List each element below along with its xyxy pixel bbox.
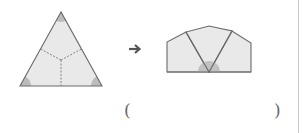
rearranged-figure [167, 26, 251, 72]
angle-sum-diagram [0, 0, 302, 133]
answer-open-paren: ( [124, 102, 131, 119]
answer-close-paren: ) [274, 102, 281, 119]
arrow-icon [129, 45, 140, 53]
triangle-figure [20, 12, 102, 86]
page-edge-divider [298, 0, 299, 133]
